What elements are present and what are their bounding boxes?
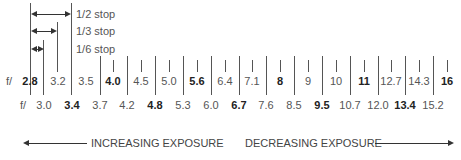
top-tick bbox=[280, 60, 281, 72]
arrowhead-right-icon bbox=[65, 11, 71, 17]
bottom-row-value: 3.4 bbox=[64, 99, 79, 111]
top-row-value: 5.6 bbox=[189, 75, 204, 87]
top-tick bbox=[141, 60, 142, 72]
bottom-tick bbox=[211, 56, 212, 95]
bottom-row-value: 4.2 bbox=[119, 99, 134, 111]
top-tick bbox=[169, 60, 170, 72]
top-tick bbox=[197, 60, 198, 72]
decreasing-exposure-arrow bbox=[375, 143, 449, 144]
bottom-row-value: 8.5 bbox=[286, 99, 301, 111]
top-row-value: 3.5 bbox=[78, 75, 93, 87]
half-stop-line bbox=[71, 3, 72, 95]
bottom-row-value: 7.6 bbox=[258, 99, 273, 111]
half-stop-arrow bbox=[33, 14, 68, 15]
arrowhead-left-icon bbox=[31, 11, 37, 17]
bottom-tick bbox=[350, 56, 351, 95]
top-tick bbox=[364, 60, 365, 72]
top-row-value: 3.2 bbox=[50, 75, 65, 87]
bottom-row-value: 4.8 bbox=[147, 99, 162, 111]
top-tick bbox=[252, 60, 253, 72]
bottom-row-value: 3.7 bbox=[92, 99, 107, 111]
top-row-value: 9 bbox=[305, 75, 311, 87]
half-stop-label: 1/2 stop bbox=[76, 8, 115, 20]
arrowhead-left-icon bbox=[31, 28, 37, 34]
third-stop-line bbox=[57, 22, 58, 72]
top-row-value: 5.0 bbox=[161, 75, 176, 87]
bottom-row-value: 6.0 bbox=[203, 99, 218, 111]
bottom-row-value: 5.3 bbox=[175, 99, 190, 111]
sixth-stop-label: 1/6 stop bbox=[76, 43, 115, 55]
top-tick bbox=[336, 60, 337, 72]
top-row-value: 16 bbox=[441, 75, 453, 87]
top-row-value: 2.8 bbox=[22, 75, 37, 87]
top-row-value: 4.5 bbox=[133, 75, 148, 87]
bottom-row-prefix: f/ bbox=[20, 99, 26, 111]
top-tick bbox=[419, 60, 420, 72]
top-tick bbox=[391, 60, 392, 72]
bottom-tick bbox=[378, 56, 379, 95]
top-tick bbox=[308, 60, 309, 72]
bottom-tick bbox=[155, 56, 156, 95]
arrowhead-right-icon bbox=[448, 140, 454, 146]
bottom-tick bbox=[433, 56, 434, 95]
increasing-exposure-caption: INCREASING EXPOSURE bbox=[91, 137, 224, 149]
bottom-row-value: 13.4 bbox=[394, 99, 415, 111]
bottom-tick bbox=[127, 56, 128, 95]
bottom-tick bbox=[322, 56, 323, 95]
top-row-value: 14.3 bbox=[408, 75, 429, 87]
top-row-value: 4.0 bbox=[105, 75, 120, 87]
bottom-tick bbox=[100, 56, 101, 95]
top-row-value: 8 bbox=[277, 75, 283, 87]
top-row-value: 12.7 bbox=[380, 75, 401, 87]
bottom-row-value: 12.0 bbox=[367, 99, 388, 111]
bottom-row-value: 3.0 bbox=[36, 99, 51, 111]
bottom-row-value: 10.7 bbox=[339, 99, 360, 111]
third-stop-label: 1/3 stop bbox=[76, 25, 115, 37]
top-row-prefix: f/ bbox=[6, 75, 12, 87]
bottom-row-value: 9.5 bbox=[314, 99, 329, 111]
top-row-value: 7.1 bbox=[244, 75, 259, 87]
bottom-row-value: 6.7 bbox=[231, 99, 246, 111]
top-row-value: 11 bbox=[358, 75, 370, 87]
arrowhead-right-icon bbox=[38, 46, 44, 52]
bottom-row-value: 15.2 bbox=[422, 99, 443, 111]
arrowhead-left-icon bbox=[31, 46, 37, 52]
increasing-exposure-arrow bbox=[27, 143, 87, 144]
top-row-value: 10 bbox=[330, 75, 342, 87]
top-row-value: 6.4 bbox=[217, 75, 232, 87]
top-tick bbox=[447, 60, 448, 72]
top-tick bbox=[113, 60, 114, 72]
decreasing-exposure-caption: DECREASING EXPOSURE bbox=[245, 137, 382, 149]
bottom-tick bbox=[239, 56, 240, 95]
bottom-tick bbox=[405, 56, 406, 95]
bottom-tick bbox=[266, 56, 267, 95]
arrowhead-right-icon bbox=[51, 28, 57, 34]
top-tick bbox=[225, 60, 226, 72]
bottom-tick bbox=[294, 56, 295, 95]
bottom-tick bbox=[183, 56, 184, 95]
